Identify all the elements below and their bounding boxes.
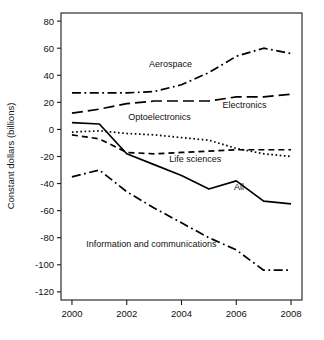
x-tick-label: 2006	[226, 308, 247, 319]
x-tick-label: 2004	[171, 308, 192, 319]
series-label: All	[234, 182, 244, 192]
series-label: Life sciences	[169, 154, 222, 164]
y-tick-label: -120	[35, 286, 54, 297]
series-label: Aerospace	[149, 59, 192, 69]
chart-container: 806040200-20-40-60-80-100-120 2000200220…	[0, 0, 324, 340]
x-axis: 20002002200420062008	[61, 300, 301, 319]
y-tick-label: -20	[40, 151, 54, 162]
y-tick-label: -60	[40, 205, 54, 216]
y-tick-label: 0	[49, 124, 54, 135]
y-tick-label: 60	[43, 43, 54, 54]
x-tick-label: 2008	[280, 308, 301, 319]
y-axis: 806040200-20-40-60-80-100-120	[35, 16, 61, 298]
y-tick-label: -100	[35, 259, 54, 270]
x-tick-label: 2000	[61, 308, 82, 319]
y-tick-label: -80	[40, 232, 54, 243]
y-tick-label: 40	[43, 70, 54, 81]
y-tick-label: -40	[40, 178, 54, 189]
series-label: Information and communications	[86, 239, 217, 249]
series-label: Electronics	[222, 100, 267, 110]
series-label: Optoelectronics	[128, 112, 191, 122]
y-tick-label: 80	[43, 16, 54, 27]
y-tick-label: 20	[43, 97, 54, 108]
y-axis-title: Constant dollars (billions)	[5, 103, 16, 210]
x-tick-label: 2002	[116, 308, 137, 319]
line-chart: 806040200-20-40-60-80-100-120 2000200220…	[0, 0, 324, 340]
